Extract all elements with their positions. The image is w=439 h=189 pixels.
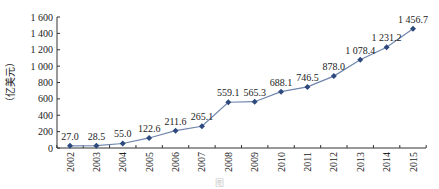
x-tick-label: 2011	[302, 152, 313, 172]
x-tick-label: 2010	[276, 152, 287, 172]
data-label: 1 078.4	[345, 45, 375, 56]
data-label: 55.0	[114, 128, 132, 139]
data-label: 688.1	[270, 77, 293, 88]
data-label: 28.5	[88, 131, 106, 142]
x-tick-label: 2008	[223, 152, 234, 172]
figure-caption: 图	[0, 176, 439, 189]
y-tick-label: 800	[38, 77, 53, 88]
data-point-marker	[252, 99, 258, 105]
data-label: 265.1	[191, 111, 214, 122]
x-tick-label: 2014	[381, 152, 392, 172]
data-point-marker	[278, 89, 284, 95]
data-point-marker	[146, 135, 152, 141]
y-tick-label: 600	[38, 93, 53, 104]
x-tick-label: 2013	[355, 152, 366, 172]
data-label: 211.6	[164, 116, 186, 127]
data-label: 559.1	[217, 87, 240, 98]
x-tick-label: 2004	[117, 152, 128, 172]
data-label: 122.6	[138, 123, 161, 134]
x-tick-label: 2009	[249, 152, 260, 172]
data-point-marker	[120, 140, 126, 146]
y-tick-label: 1 000	[31, 61, 54, 72]
x-tick-label: 2015	[408, 152, 419, 172]
y-tick-label: 200	[38, 126, 53, 137]
y-axis-label: （亿美元）	[4, 57, 16, 107]
y-tick-label: 1 400	[31, 28, 54, 39]
data-label: 1 456.7	[398, 14, 428, 25]
x-tick-label: 2003	[91, 152, 102, 172]
data-point-marker	[331, 73, 337, 79]
data-point-marker	[357, 57, 363, 63]
x-tick-label: 2006	[170, 152, 181, 172]
x-tick-label: 2002	[65, 152, 76, 172]
x-tick-label: 2007	[196, 152, 207, 172]
data-label: 1 231.2	[372, 32, 402, 43]
data-label: 878.0	[323, 61, 346, 72]
y-tick-label: 1 600	[31, 12, 54, 23]
data-point-marker	[173, 128, 179, 134]
data-label: 565.3	[243, 87, 266, 98]
data-point-marker	[304, 84, 310, 90]
y-tick-label: 400	[38, 110, 53, 121]
x-tick-label: 2012	[328, 152, 339, 172]
y-tick-label: 0	[48, 143, 53, 154]
y-tick-label: 1 200	[31, 44, 54, 55]
data-label: 746.5	[296, 72, 319, 83]
data-label: 27.0	[61, 131, 79, 142]
x-tick-label: 2005	[144, 152, 155, 172]
line-chart: 02004006008001 0001 2001 4001 600（亿美元）20…	[0, 0, 439, 189]
